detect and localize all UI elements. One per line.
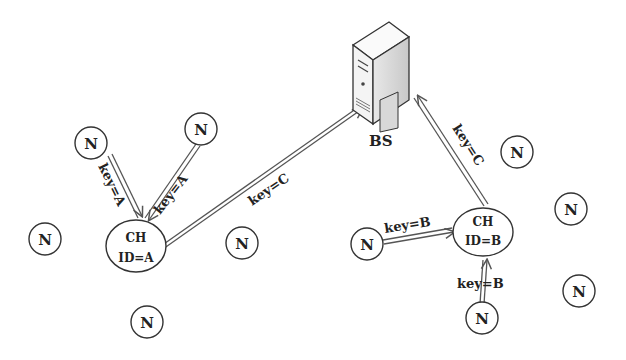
cluster-head-b: CH ID=B [453, 208, 513, 256]
sensor-node: N [131, 306, 163, 338]
sensor-node: N [226, 227, 258, 259]
sensor-node-label: N [38, 231, 52, 249]
edge-label-n1-cha: key=A [95, 161, 129, 210]
sensor-node: N [351, 228, 383, 260]
sensor-node: N [466, 302, 498, 334]
cluster-head-b-id: ID=B [465, 234, 501, 248]
sensor-node: N [501, 136, 533, 168]
sensor-node: N [29, 223, 61, 255]
edge-label-n2-cha: key=A [151, 171, 192, 217]
cluster-head-b-title: CH [473, 215, 494, 229]
edge-label-n4-chb: key=B [457, 276, 504, 291]
sensor-node-label: N [235, 235, 249, 253]
server-icon [353, 22, 409, 132]
sensor-node: N [563, 275, 595, 307]
base-station: BS [353, 22, 409, 150]
sensor-node-label: N [572, 283, 586, 301]
sensor-node: N [75, 127, 107, 159]
sensor-node: N [555, 193, 587, 225]
sensor-node-label: N [564, 201, 578, 219]
sensor-node-label: N [360, 236, 374, 254]
sensor-node-label: N [475, 310, 489, 328]
edge-label-cha-bs: key=C [245, 170, 292, 208]
sensor-node-label: N [510, 144, 524, 162]
cluster-head-a-id: ID=A [118, 251, 154, 265]
network-diagram: key=A key=A key=C key=C key=B key=B BS C… [0, 0, 626, 360]
base-station-label: BS [369, 132, 393, 150]
sensor-node-label: N [84, 135, 98, 153]
sensor-node-label: N [140, 314, 154, 332]
sensor-node-label: N [194, 121, 208, 139]
cluster-head-a: CH ID=A [106, 220, 166, 272]
sensor-node: N [185, 113, 217, 145]
cluster-head-a-title: CH [126, 231, 147, 245]
